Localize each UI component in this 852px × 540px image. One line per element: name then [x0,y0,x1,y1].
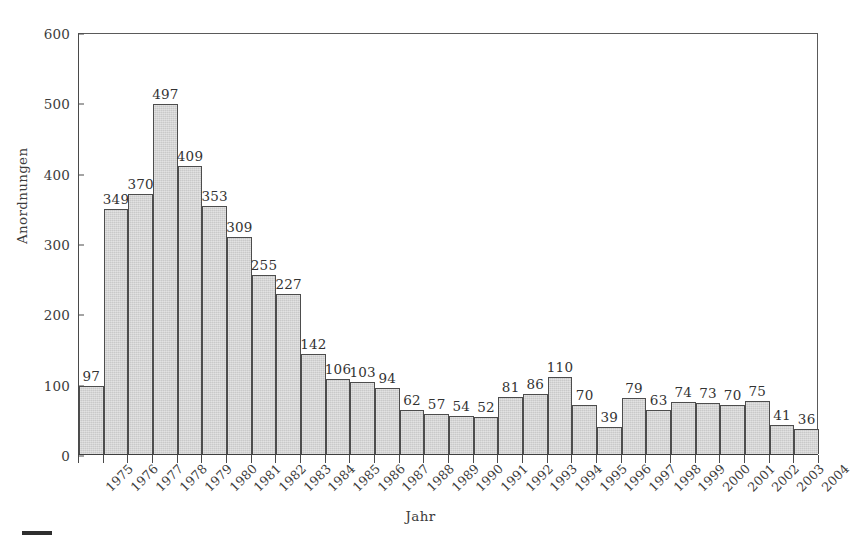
bar-rect [350,382,375,454]
bar-1977: 370 [128,32,153,454]
x-tick-label-1999: 1999 [695,461,729,495]
x-tick-label-1990: 1990 [473,461,507,495]
bar-value-label: 73 [699,385,717,401]
bar-1998: 63 [646,32,671,454]
bar-value-label: 52 [477,399,495,415]
bar-rect [301,354,326,454]
x-tick-mark [497,455,498,463]
y-tick-label: 200 [44,307,79,323]
x-tick-label-1979: 1979 [201,461,235,495]
x-tick-mark [670,455,671,463]
bar-rect [548,377,573,454]
x-tick-mark [423,455,424,463]
x-tick-label-2002: 2002 [769,461,803,495]
bar-rect [646,410,671,454]
x-tick-label-1978: 1978 [177,461,211,495]
bar-1991: 52 [474,32,499,454]
x-tick-mark [818,455,819,463]
bar-rect [572,405,597,454]
bar-value-label: 497 [152,86,178,102]
x-tick-label-1982: 1982 [275,461,309,495]
bar-1996: 39 [597,32,622,454]
bar-1997: 79 [622,32,647,454]
x-tick-label-1984: 1984 [325,461,359,495]
bar-value-label: 353 [201,188,227,204]
x-tick-mark [448,455,449,463]
bar-value-label: 70 [576,387,594,403]
bar-rect [153,104,178,454]
bar-rect [523,394,548,454]
bar-value-label: 54 [453,398,471,414]
bar-value-label: 36 [798,411,816,427]
bar-1995: 70 [572,32,597,454]
bar-rect [474,417,499,454]
bar-rect [375,388,400,454]
x-tick-mark [275,455,276,463]
y-tick-mark [79,456,84,457]
y-tick-label: 0 [61,448,79,464]
bar-value-label: 409 [177,148,203,164]
x-tick-label-1993: 1993 [547,461,581,495]
x-tick-label-1980: 1980 [226,461,260,495]
bar-rect [326,379,351,454]
bar-value-label: 39 [601,409,619,425]
bar-rect [400,410,425,454]
bar-rect [745,401,770,454]
bar-value-label: 309 [226,219,252,235]
plot-area: 0100200300400500600 97349370497409353309… [78,33,818,455]
bar-value-label: 63 [650,392,668,408]
x-tick-mark [127,455,128,463]
y-tick-label: 300 [44,237,79,253]
bar-rect [178,166,203,454]
bar-rect [128,194,153,454]
x-tick-label-1987: 1987 [399,461,433,495]
x-tick-mark [571,455,572,463]
x-tick-mark [744,455,745,463]
bar-2001: 70 [720,32,745,454]
x-axis-title: Jahr [0,508,841,524]
bar-rect [449,416,474,454]
bar-1978: 497 [153,32,178,454]
x-tick-mark [226,455,227,463]
bar-1987: 94 [375,32,400,454]
x-tick-mark [473,455,474,463]
bars-layer: 9734937049740935330925522714210610394625… [79,34,817,454]
bar-rect [720,405,745,454]
bar-rect [276,294,301,454]
bar-value-label: 106 [325,361,351,377]
x-tick-label-1986: 1986 [374,461,408,495]
bar-value-label: 81 [502,379,520,395]
bar-rect [227,237,252,454]
bar-1975: 97 [79,32,104,454]
x-tick-mark [399,455,400,463]
x-tick-mark [596,455,597,463]
bar-value-label: 97 [83,368,101,384]
bar-1990: 54 [449,32,474,454]
bar-value-label: 70 [724,387,742,403]
bar-1992: 81 [498,32,523,454]
bar-rect [104,209,129,454]
x-tick-label-2003: 2003 [793,461,827,495]
bar-1980: 353 [202,32,227,454]
x-tick-label-1988: 1988 [423,461,457,495]
x-tick-mark [719,455,720,463]
bar-1983: 227 [276,32,301,454]
bar-value-label: 62 [403,392,421,408]
y-tick-label: 500 [44,96,79,112]
x-tick-mark [547,455,548,463]
x-tick-mark [695,455,696,463]
bar-value-label: 75 [749,383,767,399]
bar-1981: 309 [227,32,252,454]
y-tick-label: 600 [44,26,79,42]
bar-1989: 57 [424,32,449,454]
x-tick-mark [522,455,523,463]
bar-rect [770,425,795,454]
bar-value-label: 349 [103,191,129,207]
x-tick-label-1998: 1998 [670,461,704,495]
x-tick-label-1997: 1997 [645,461,679,495]
x-tick-label-1977: 1977 [152,461,186,495]
x-tick-label-1975: 1975 [103,461,137,495]
bar-value-label: 110 [547,359,573,375]
bar-2000: 73 [696,32,721,454]
bar-value-label: 86 [527,376,545,392]
